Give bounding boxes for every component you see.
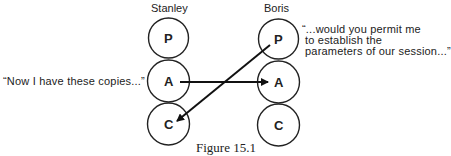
stanley-c-letter: C (164, 117, 173, 132)
stanley-p-letter: P (164, 31, 173, 46)
boris-label: Boris (264, 2, 289, 14)
figure-caption: Figure 15.1 (196, 140, 256, 156)
boris-a-letter: A (274, 75, 283, 90)
stanley-a-letter: A (164, 74, 173, 89)
boris-c-letter: C (274, 118, 283, 133)
boris-quote-line-3: parameters of our session...” (305, 46, 451, 57)
stanley-label: Stanley (151, 2, 188, 14)
stanley-quote: “Now I have these copies...” (3, 76, 145, 87)
boris-p-letter: P (274, 32, 283, 47)
